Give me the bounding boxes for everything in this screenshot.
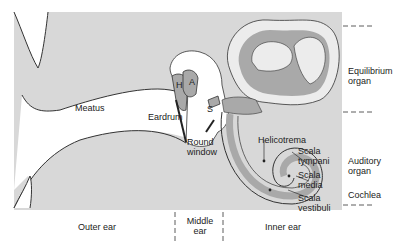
- label-eardrum: Eardrum: [148, 112, 183, 122]
- label-scala-media-line1: Scala: [298, 170, 323, 180]
- ear-anatomy-diagram: [0, 0, 403, 245]
- label-scala-tympani-line2: tympani: [298, 156, 330, 166]
- label-scala-tympani-line1: Scala: [298, 146, 330, 156]
- label-anvil: A: [189, 77, 195, 87]
- canal-loop-left: [252, 42, 293, 71]
- label-auditory-line2: organ: [348, 166, 381, 176]
- label-cochlea: Cochlea: [348, 190, 381, 200]
- region-middle-ear-line1: Middle: [180, 216, 220, 226]
- label-scala-media: Scala media: [298, 170, 323, 190]
- region-middle-ear-line2: ear: [180, 226, 220, 236]
- label-scala-vestibuli-line2: vestibuli: [298, 203, 331, 213]
- label-scala-vestibuli: Scala vestibuli: [298, 193, 331, 213]
- label-auditory-line1: Auditory: [348, 156, 381, 166]
- label-helicotrema: Helicotrema: [258, 135, 306, 145]
- label-meatus: Meatus: [75, 103, 105, 113]
- label-round-window-line1: Round: [187, 137, 217, 147]
- region-middle-ear: Middle ear: [180, 216, 220, 236]
- label-equilibrium-line1: Equilibrium: [348, 66, 393, 76]
- label-scala-tympani: Scala tympani: [298, 146, 330, 166]
- label-equilibrium-line2: organ: [348, 76, 393, 86]
- label-round-window: Round window: [187, 137, 217, 157]
- label-round-window-line2: window: [187, 147, 217, 157]
- label-auditory-organ: Auditory organ: [348, 156, 381, 176]
- region-inner-ear: Inner ear: [265, 222, 301, 232]
- label-hammer: H: [176, 80, 183, 90]
- label-scala-vestibuli-line1: Scala: [298, 193, 331, 203]
- label-equilibrium-organ: Equilibrium organ: [348, 66, 393, 86]
- label-stirrup: S: [207, 104, 213, 114]
- label-scala-media-line2: media: [298, 180, 323, 190]
- region-outer-ear: Outer ear: [78, 222, 116, 232]
